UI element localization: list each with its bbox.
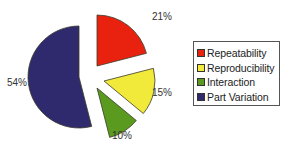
percent-label: 15% xyxy=(152,87,172,98)
pie-slices xyxy=(28,15,155,137)
legend-swatch-icon xyxy=(197,49,205,57)
percent-label: 54% xyxy=(7,77,27,88)
legend-item-part-variation: Part Variation xyxy=(197,90,279,105)
percent-label: 21% xyxy=(152,11,172,22)
legend-label: Reproducibility xyxy=(207,62,274,74)
legend-item-repeatability: Repeatability xyxy=(197,46,279,61)
legend-swatch-icon xyxy=(197,93,205,101)
legend-item-reproducibility: Reproducibility xyxy=(197,61,279,76)
chart-legend: Repeatability Reproducibility Interactio… xyxy=(193,41,280,106)
percent-label: 10% xyxy=(112,130,132,141)
legend-swatch-icon xyxy=(197,64,205,72)
pie-slice-repeatability xyxy=(97,15,146,66)
legend-label: Part Variation xyxy=(207,91,268,103)
pie-slice-part-variation xyxy=(28,26,92,128)
legend-label: Repeatability xyxy=(207,47,266,59)
legend-item-interaction: Interaction xyxy=(197,75,279,90)
legend-swatch-icon xyxy=(197,78,205,86)
legend-label: Interaction xyxy=(207,76,255,88)
